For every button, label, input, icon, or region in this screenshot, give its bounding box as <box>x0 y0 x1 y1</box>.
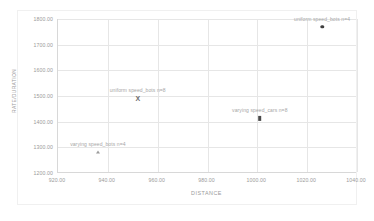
circle-marker-icon <box>320 25 323 28</box>
x-axis-tick-label: 960.00 <box>133 177 181 183</box>
gridline-vertical <box>307 19 308 172</box>
data-point[interactable] <box>258 116 262 120</box>
x-axis-tick-label: 1040.00 <box>332 177 374 183</box>
chart-figure: RATE/DURATION uniform speed_bots n=4Xuni… <box>0 0 374 221</box>
plot-area: uniform speed_bots n=4Xuniform speed_bot… <box>57 19 356 173</box>
x-axis-tick-label: 1020.00 <box>282 177 330 183</box>
data-point-label: varying speed_bots n=4 <box>70 141 125 147</box>
x-axis-tick-label: 940.00 <box>83 177 131 183</box>
y-axis-tick-label: 1700.00 <box>9 42 53 48</box>
data-point-label: varying speed_cars n=8 <box>232 107 287 113</box>
gridline-horizontal <box>58 173 356 174</box>
x-axis-tick-label: 980.00 <box>183 177 231 183</box>
gridline-vertical <box>108 19 109 172</box>
square-marker-icon <box>258 116 262 120</box>
data-point-label: uniform speed_bots n=4 <box>294 16 350 22</box>
gridline-vertical <box>357 19 358 172</box>
y-axis-tick-label: 1400.00 <box>9 119 53 125</box>
y-axis-tick-label: 1200.00 <box>9 170 53 176</box>
x-axis-title: DISTANCE <box>57 190 356 196</box>
data-point[interactable] <box>96 151 100 154</box>
gridline-vertical <box>158 19 159 172</box>
triangle-marker-icon <box>96 151 100 154</box>
data-point[interactable] <box>320 25 323 28</box>
y-axis-tick-label: 1300.00 <box>9 144 53 150</box>
gridline-vertical <box>208 19 209 172</box>
gridline-vertical <box>257 19 258 172</box>
data-point[interactable]: X <box>135 94 140 101</box>
x-marker-icon: X <box>135 94 140 101</box>
y-axis-tick-label: 1800.00 <box>9 16 53 22</box>
x-axis-tick-label: 920.00 <box>33 177 81 183</box>
y-axis-tick-label: 1500.00 <box>9 93 53 99</box>
y-axis-tick-label: 1600.00 <box>9 67 53 73</box>
data-point-label: uniform speed_bots n=8 <box>110 87 166 93</box>
x-axis-tick-label: 1000.00 <box>232 177 280 183</box>
